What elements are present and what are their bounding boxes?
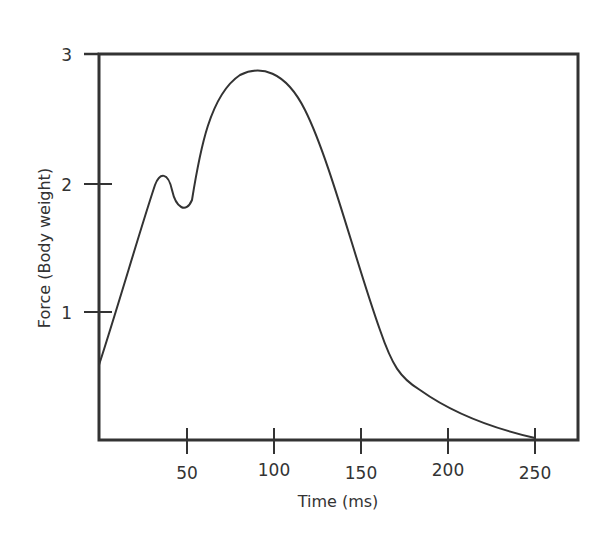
y-tick-label-2: 2 <box>61 175 72 195</box>
plot-frame <box>99 54 578 440</box>
x-tick-label-100: 100 <box>258 460 290 480</box>
y-tick-label-1: 1 <box>61 303 72 323</box>
y-axis-label: Force (Body weight) <box>35 168 54 328</box>
x-axis-label: Time (ms) <box>297 492 379 511</box>
x-tick-label-250: 250 <box>519 463 551 483</box>
force-curve <box>99 71 535 438</box>
x-tick-label-150: 150 <box>345 463 377 483</box>
x-tick-label-50: 50 <box>176 463 198 483</box>
force-time-chart: 3 2 1 50 100 150 200 250 Time (ms) Force… <box>0 0 615 542</box>
x-tick-label-200: 200 <box>432 460 464 480</box>
y-tick-label-3: 3 <box>61 45 72 65</box>
